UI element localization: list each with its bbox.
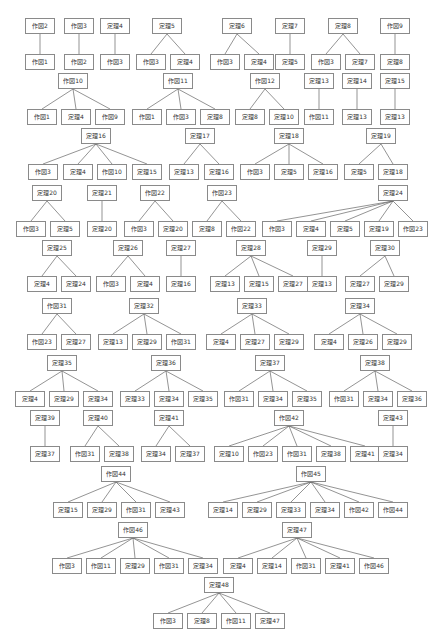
tree-root-node: 定理18 [274, 128, 304, 144]
tree-edge [393, 201, 413, 221]
tree-child-node: 定理27 [278, 276, 308, 292]
tree-child-node: 作図3 [124, 221, 154, 237]
tree-root-node: 定理6 [222, 18, 252, 34]
tree-child-node: 定理13 [169, 164, 199, 180]
tree-edge [62, 371, 98, 391]
tree-child-node: 作図23 [27, 334, 57, 350]
tree-edge [133, 538, 169, 558]
tree-edge [291, 482, 311, 502]
tree-child-node: 定理34 [310, 502, 340, 518]
tree-root-node: 作図9 [380, 18, 410, 34]
tree-child-node: 定理4 [314, 334, 344, 350]
tree-root-node: 定理29 [307, 240, 337, 256]
tree-edge [57, 314, 76, 334]
tree-root-node: 作図46 [118, 522, 148, 538]
tree-root-node: 定理35 [47, 355, 77, 371]
tree-root-node: 作図10 [58, 73, 88, 89]
tree-child-node: 作図46 [359, 558, 389, 574]
tree-child-node: 定理5 [344, 164, 374, 180]
tree-edge [265, 89, 284, 109]
tree-child-node: 定理34 [363, 391, 393, 407]
tree-root-node: 定理41 [154, 410, 184, 426]
tree-edge [375, 371, 412, 391]
tree-edge [385, 256, 394, 276]
tree-edge [62, 371, 64, 391]
tree-edge [289, 144, 323, 164]
tree-child-node: 定理29 [49, 391, 79, 407]
tree-edge [42, 256, 57, 276]
tree-edge [184, 144, 200, 164]
tree-root-node: 定理4 [100, 18, 130, 34]
tree-child-node: 作図23 [248, 446, 278, 462]
tree-edge [116, 482, 170, 502]
edges-layer [0, 0, 442, 629]
tree-child-node: 定理41 [325, 558, 355, 574]
tree-child-node: 定理10 [214, 446, 244, 462]
tree-child-node: 定理13 [210, 276, 240, 292]
tree-root-node: 作図2 [25, 18, 55, 34]
tree-child-node: 定理26 [348, 334, 378, 350]
tree-child-node: 定理29 [382, 334, 412, 350]
tree-root-node: 定理43 [378, 410, 408, 426]
tree-child-node: 定理4 [170, 54, 200, 70]
tree-child-node: 定理8 [380, 54, 410, 70]
tree-child-node: 作図23 [398, 221, 428, 237]
tree-child-node: 作図31 [154, 558, 184, 574]
tree-edge [178, 89, 215, 109]
tree-root-node: 定理27 [166, 240, 196, 256]
tree-child-node: 定理20 [87, 221, 117, 237]
tree-child-node: 定理13 [380, 109, 410, 125]
tree-child-node: 作図3 [52, 558, 82, 574]
tree-edge [42, 314, 57, 334]
tree-root-node: 作図31 [42, 298, 72, 314]
tree-edge [111, 256, 128, 276]
tree-edge [270, 371, 307, 391]
tree-child-node: 定理29 [87, 502, 117, 518]
tree-edge [238, 538, 297, 558]
tree-root-node: 定理28 [236, 240, 266, 256]
tree-child-node: 定理5 [275, 54, 305, 70]
tree-child-node: 定理27 [345, 276, 375, 292]
tree-child-node: 定理4 [15, 391, 45, 407]
tree-edge [257, 482, 311, 502]
tree-edge [73, 89, 76, 109]
tree-edge [297, 538, 374, 558]
tree-edge [166, 371, 203, 391]
tree-edge [272, 538, 297, 558]
tree-edge [166, 371, 169, 391]
tree-edge [144, 314, 147, 334]
tree-child-node: 作図1 [27, 109, 57, 125]
tree-edge [85, 426, 98, 446]
tree-edge [375, 371, 378, 391]
tree-child-node: 作図3 [311, 54, 341, 70]
tree-edge [135, 371, 166, 391]
tree-child-node: 定理4 [61, 109, 91, 125]
tree-edge [133, 538, 203, 558]
tree-child-node: 作図3 [262, 221, 292, 237]
tree-child-node: 定理5 [50, 221, 80, 237]
tree-edge [263, 426, 289, 446]
tree-child-node: 作図42 [344, 502, 374, 518]
tree-root-node: 作図22 [140, 185, 170, 201]
tree-child-node: 定理33 [276, 502, 306, 518]
tree-edge [255, 144, 289, 164]
tree-child-node: 定理47 [255, 613, 285, 629]
tree-edge [31, 201, 47, 221]
tree-edge [57, 256, 76, 276]
tree-child-node: 定理34 [188, 558, 218, 574]
tree-root-node: 作図42 [274, 410, 304, 426]
tree-edge [101, 538, 133, 558]
tree-edge [326, 34, 343, 54]
tree-root-node: 定理38 [360, 355, 390, 371]
diagram-canvas: 作図2作図1作図3作図2定理4作図3定理5作図3定理4定理6作図3定理4定理7定… [0, 0, 442, 629]
tree-edge [329, 314, 360, 334]
tree-edge [43, 144, 96, 164]
tree-child-node: 定理5 [330, 221, 360, 237]
tree-child-node: 作図3 [166, 109, 196, 125]
tree-child-node: 定理7 [345, 54, 375, 70]
tree-root-node: 定理17 [185, 128, 215, 144]
tree-child-node: 定理29 [120, 558, 150, 574]
tree-child-node: 作図44 [378, 502, 408, 518]
tree-root-node: 定理8 [328, 18, 358, 34]
tree-edge [156, 426, 169, 446]
